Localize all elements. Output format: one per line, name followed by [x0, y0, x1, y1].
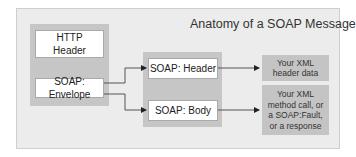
connector-arrows	[0, 0, 356, 157]
